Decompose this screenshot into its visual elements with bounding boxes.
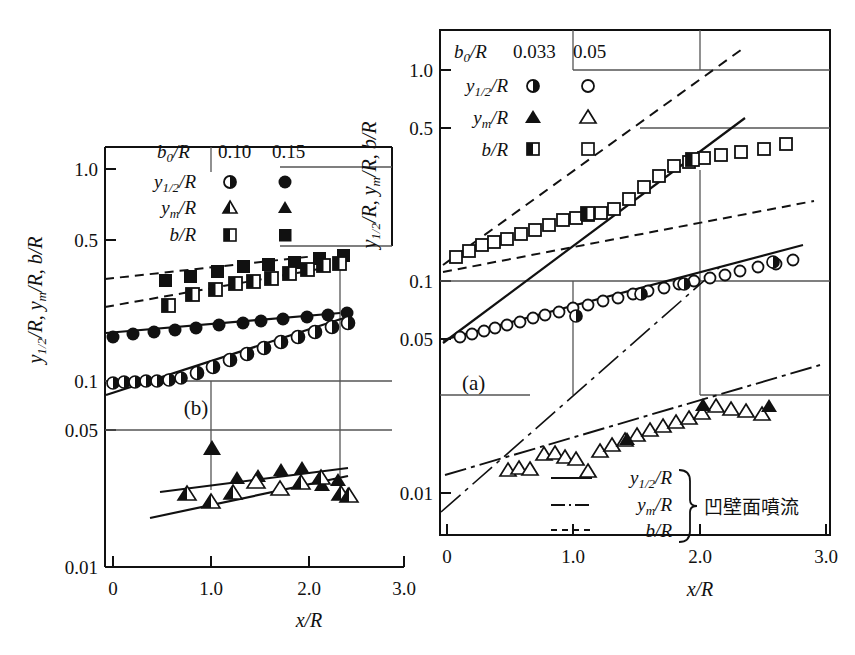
panel-b-legend-col-1: 0.10 xyxy=(218,141,251,162)
figure-canvas: 1.0 0.5 0.1 0.05 0.01 0 1.0 2.0 3.0 x/R … xyxy=(0,0,855,655)
panel-a-legend-col-1: 0.033 xyxy=(513,41,556,62)
panel-a-legend-row-2-marker-col1 xyxy=(527,143,539,155)
panel-b-ytick-2: 0.1 xyxy=(74,371,98,392)
panel-a-ytick-2: 0.1 xyxy=(409,271,433,292)
panel-b-legend-row-1-marker-col2 xyxy=(278,201,292,213)
panel-a-xtick-0: 0 xyxy=(442,546,452,567)
panel-b-legend-row-1-label: ym/R xyxy=(159,197,196,221)
panel-b-series-bR-010 xyxy=(162,257,346,312)
panel-b-ytick-1: 0.5 xyxy=(74,230,98,251)
panel-b-series-y12-010 xyxy=(107,317,355,390)
panel-a-ytick-labels: 1.0 0.5 0.1 0.05 0.01 xyxy=(400,60,433,504)
panel-a-xticks xyxy=(447,524,826,535)
panel-a-legend: b0/R 0.033 0.05 y1/2/R ym/R b/R xyxy=(454,41,606,160)
line-legend-group-label: 凹壁面噴流 xyxy=(704,496,799,518)
panel-a-ytick-4: 0.01 xyxy=(400,483,433,504)
panel-b-label: (b) xyxy=(184,396,209,420)
line-legend-brace xyxy=(679,470,697,542)
panel-b-legend-row-0-marker-col1 xyxy=(224,176,236,188)
panel-b-xtick-2: 2.0 xyxy=(297,578,321,599)
panel-b-xtick-3: 3.0 xyxy=(392,578,416,599)
panel-a-ytick-1: 0.5 xyxy=(409,118,433,139)
line-legend-label-0: y1/2/R xyxy=(628,467,672,491)
panel-a-line-legend: y1/2/R ym/R b/R 凹壁面噴流 xyxy=(551,467,799,542)
panel-b-legend: b0/R 0.10 0.15 y1/2/R ym/R b/ xyxy=(152,141,392,246)
panel-a-legend-row-1-marker-col2 xyxy=(580,110,596,123)
panel-b-xtick-0: 0 xyxy=(108,578,118,599)
panel-b-legend-row-0-label: y1/2/R xyxy=(152,171,196,195)
panel-b-legend-row-1-marker-col1 xyxy=(223,201,237,213)
line-legend-label-1: ym/R xyxy=(635,494,672,518)
panel-a-legend-col-2: 0.05 xyxy=(573,41,606,62)
panel-a-legend-row-2-marker-col2 xyxy=(582,143,594,155)
panel-a-legend-param: b0/R xyxy=(454,41,487,65)
panel-b-xtick-1: 1.0 xyxy=(199,578,223,599)
panel-a-label: (a) xyxy=(462,371,485,395)
panel-a-series-y12-0033 xyxy=(570,256,779,322)
panel-b-legend-row-2-marker-col1 xyxy=(224,229,236,241)
panel-b-series-ym-010 xyxy=(178,470,358,508)
panel-a-legend-row-1-marker-col1 xyxy=(525,110,541,123)
panel-a-legend-row-0-marker-col1 xyxy=(527,80,539,92)
panel-b-xtick-labels: 0 1.0 2.0 3.0 xyxy=(108,578,416,599)
panel-b-legend-param: b0/R xyxy=(157,141,190,165)
panel-a: 1.0 0.5 0.1 0.05 0.01 0 1.0 2.0 3.0 x/R … xyxy=(358,30,838,600)
panel-b-yaxis-title: y1/2/R, ym/R, b/R y₁/₂/R, yₘ/R, b/R xyxy=(24,230,49,369)
panel-a-ytick-3: 0.05 xyxy=(400,329,433,350)
panel-b-yticks xyxy=(105,169,116,567)
panel-a-series-ym-005 xyxy=(500,399,770,477)
panel-a-series-y12-005 xyxy=(455,255,799,343)
panel-b-legend-row-2-label: b/R xyxy=(170,224,197,245)
panel-a-yaxis-title: y1/2/R, ym/R, b/R y₁/₂/R, yₘ/R, b/R xyxy=(358,115,383,254)
panel-a-xtick-2: 2.0 xyxy=(688,546,712,567)
panel-a-legend-row-0-marker-col2 xyxy=(582,80,594,92)
panel-b-ytick-3: 0.05 xyxy=(65,420,98,441)
panel-b-xaxis-title: x/R xyxy=(295,609,323,631)
panel-a-legend-row-0-label: y1/2/R xyxy=(464,75,508,99)
panel-b-legend-row-0-marker-col2 xyxy=(279,176,292,189)
panel-a-xtick-1: 1.0 xyxy=(561,546,585,567)
panel-b-ytick-4: 0.01 xyxy=(65,557,98,578)
panel-a-legend-row-2-label: b/R xyxy=(482,139,509,160)
panel-b-ytick-0: 1.0 xyxy=(74,159,98,180)
panel-b-fit-lines xyxy=(105,255,348,518)
panel-a-legend-row-1-label: ym/R xyxy=(471,107,508,131)
figure-svg: 1.0 0.5 0.1 0.05 0.01 0 1.0 2.0 3.0 x/R … xyxy=(0,0,855,655)
panel-b-legend-col-2: 0.15 xyxy=(272,141,305,162)
panel-a-xtick-labels: 0 1.0 2.0 3.0 xyxy=(442,546,838,567)
panel-b-xticks xyxy=(113,556,404,567)
panel-a-xaxis-title: x/R xyxy=(686,578,714,600)
panel-a-xtick-3: 3.0 xyxy=(814,546,838,567)
panel-b-ytick-labels: 1.0 0.5 0.1 0.05 0.01 xyxy=(65,159,98,578)
line-legend-label-2: b/R xyxy=(646,520,673,541)
panel-a-ytick-0: 1.0 xyxy=(409,60,433,81)
panel-b-legend-row-2-marker-col2 xyxy=(279,229,292,242)
